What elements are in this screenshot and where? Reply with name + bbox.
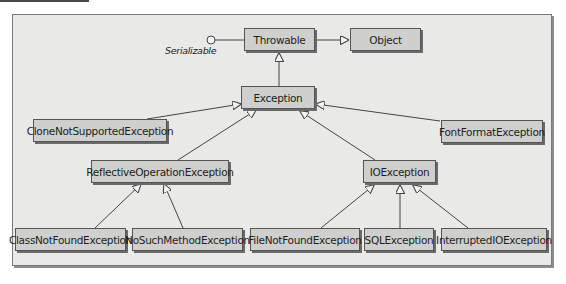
edge-io-exception	[300, 111, 375, 160]
class-fontformatexception[interactable]: FontFormatException	[441, 120, 543, 143]
class-classnotfoundexception[interactable]: ClassNotFoundException	[15, 228, 126, 251]
class-nosuchmethodexception[interactable]: NoSuchMethodException	[132, 228, 243, 251]
class-filenotfoundexception[interactable]: FileNotFoundException	[250, 228, 360, 251]
class-throwable[interactable]: Throwable	[244, 28, 315, 51]
class-interruptedioexception[interactable]: InterruptedIOException	[441, 228, 547, 251]
edge-fontformat-exception	[316, 104, 440, 121]
edge-clone-exception	[147, 104, 241, 119]
class-clonenotsupportedexception[interactable]: CloneNotSupportedException	[33, 119, 167, 142]
class-sqlexception[interactable]: SQLException	[364, 228, 434, 251]
edge-classnotfound-reflective	[95, 184, 141, 228]
edge-nosuchmethod-reflective	[164, 184, 183, 228]
edge-filenotfound-io	[321, 185, 374, 228]
class-exception[interactable]: Exception	[241, 86, 315, 109]
class-reflectiveoperationexception[interactable]: ReflectiveOperationException	[91, 160, 229, 183]
edge-reflective-exception	[178, 110, 256, 160]
edge-interruptedio-io	[413, 185, 468, 228]
class-ioexception[interactable]: IOException	[363, 160, 436, 183]
serializable-label: Serializable	[165, 45, 216, 56]
class-object[interactable]: Object	[350, 28, 421, 51]
serializable-interface-icon	[207, 36, 215, 44]
